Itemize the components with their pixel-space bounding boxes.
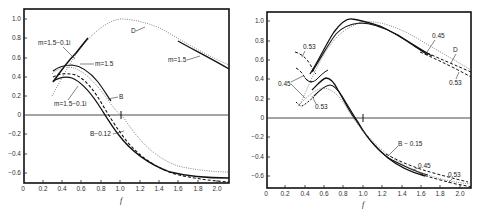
y-tick-label: 0.2 [12,92,21,99]
x-tick-label: 1.0 [358,190,367,197]
x-tick-label: 0.6 [76,185,85,192]
y-tick-label: 0.6 [255,56,264,63]
x-tick-label: 0.8 [96,185,105,192]
right-label-045-left: 0.45 [278,80,291,87]
x-tick-label: 1.0 [115,185,124,192]
y-tick-label: −0.2 [251,133,264,140]
left-leader-B012 [113,131,124,134]
x-tick-label: 0.4 [300,190,309,197]
left-leader-m4 [68,86,78,100]
y-tick-label: −0.6 [8,169,21,176]
y-tick-label: 0.8 [255,37,264,44]
y-tick-label: 0.6 [12,54,21,61]
right-x-tick-labels: 0 0.2 0.4 0.6 0.8 1.0 1.2 1.4 1.6 1.8 2.… [264,190,465,197]
y-tick-label: 0.8 [12,34,21,41]
x-tick-label: 1.2 [377,190,386,197]
right-curve-B-solid-1 [312,78,425,176]
right-leader-c053 [456,72,459,79]
y-tick-label: 1.0 [255,17,264,24]
left-leader-m1 [63,47,75,59]
right-label-045-lower: 0.45 [418,162,431,169]
right-curve-053-upper-dashed [420,52,471,77]
y-tick-label: 0.4 [255,75,264,82]
right-label-053-upper: 0.53 [449,79,462,86]
x-tick-label: 0.4 [57,185,66,192]
x-tick-label: 1.6 [416,190,425,197]
y-tick-label: 0.2 [255,95,264,102]
y-tick-label: −0.4 [8,150,21,157]
right-label-045-upper: 0.45 [432,32,445,39]
x-tick-label: 1.8 [193,185,202,192]
right-leader-a045a [291,76,303,82]
x-tick-label: 0.2 [280,190,289,197]
left-label-m15-0.1i-upper: m=1.5−0.1i [38,39,71,46]
right-label-053-top: 0.53 [303,43,316,50]
left-leader-m3 [187,56,200,60]
x-tick-label: 2.0 [455,190,464,197]
left-curve-B-0.12 [53,74,229,182]
y-tick-label: 0 [17,111,21,118]
left-x-tick-labels: 0 0.2 0.4 0.6 0.8 1.0 1.2 1.4 1.6 1.8 2.… [21,185,222,192]
figure: 1.0 0.8 0.6 0.4 0.2 0 −0.2 −0.4 −0.6 0 0… [0,0,487,212]
left-curve-m15-upper [178,41,229,69]
left-label-B-0.12: B−0.12 [90,130,111,137]
x-tick-label: 1.4 [397,190,406,197]
left-x-axis-label: f [120,196,124,205]
right-leader-D [451,54,456,63]
y-tick-label: 1.0 [12,15,21,22]
x-tick-label: 1.4 [154,185,163,192]
left-label-m15: m=1.5 [95,60,114,67]
x-tick-label: 0.8 [338,190,347,197]
left-leader-D [136,27,145,31]
right-curve-045-left-dashed [296,68,312,82]
right-leader-c045 [427,40,435,52]
y-tick-label: −0.4 [251,153,264,160]
right-leader-d045 [413,168,418,170]
left-curve-m15-0.1i [53,77,229,178]
left-curve-D [52,19,229,96]
right-label-053-left-lower: 0.53 [315,103,328,110]
right-label-D: D [453,46,458,53]
x-tick-label: 0.2 [38,185,47,192]
right-curve-045-left-solid-loop [305,70,328,82]
left-label-m15-0.1i-lower: m=1.5−0.1i [54,100,87,107]
y-tick-label: 0.4 [12,73,21,80]
x-tick-label: 0.6 [319,190,328,197]
x-tick-label: 0 [21,185,25,192]
left-label-m15-right: m=1.5 [168,56,187,63]
y-tick-label: −0.2 [8,130,21,137]
left-label-D: D [131,27,136,34]
right-label-053-lower: 0.53 [448,171,461,178]
right-label-B-0.15: B − 0.15 [398,140,423,147]
right-x-axis-label: f [362,200,366,209]
x-tick-label: 0 [264,190,268,197]
x-tick-label: 1.2 [135,185,144,192]
left-panel: 1.0 0.8 0.6 0.4 0.2 0 −0.2 −0.4 −0.6 0 0… [8,9,229,205]
left-y-tick-labels: 1.0 0.8 0.6 0.4 0.2 0 −0.2 −0.4 −0.6 [8,15,21,176]
y-tick-label: −0.6 [251,172,264,179]
right-curve-053-left-lower-dashed [296,97,314,106]
right-leader-a053 [302,51,305,57]
x-tick-label: 1.8 [435,190,444,197]
right-curve-D [300,22,471,104]
x-tick-label: 2.0 [212,185,221,192]
right-curve-B-solid-2 [314,85,428,175]
left-axes-frame [24,9,229,183]
right-panel: 1.0 0.8 0.6 0.4 0.2 0 −0.2 −0.4 −0.6 0 0… [251,12,471,209]
right-leader-a045b [291,84,305,98]
right-curve-upper-solid-2 [312,23,432,72]
left-label-B: B [119,93,123,100]
x-tick-label: 1.6 [173,185,182,192]
right-y-tick-labels: 1.0 0.8 0.6 0.4 0.2 0 −0.2 −0.4 −0.6 [251,17,264,179]
y-tick-label: 0 [260,114,264,121]
right-leader-B015 [388,146,398,156]
